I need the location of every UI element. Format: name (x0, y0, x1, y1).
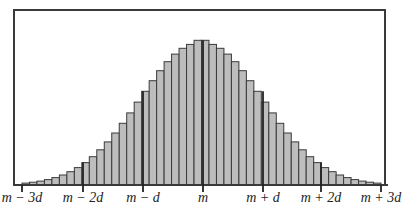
histogram-bar (104, 142, 111, 185)
tick-label-m-plus-3d: m + 3d (361, 190, 402, 206)
histogram-bar (306, 157, 313, 185)
histogram-bar (194, 40, 201, 185)
histogram-bar (74, 168, 81, 185)
histogram-bar (269, 113, 276, 185)
histogram-bar (187, 44, 194, 185)
histogram-bar (216, 48, 223, 185)
histogram-bar (224, 54, 231, 185)
histogram-bar (329, 172, 336, 185)
histogram-bar (127, 113, 134, 185)
histogram-bar (276, 123, 283, 185)
histogram-bar (231, 62, 238, 185)
histogram-bar (344, 178, 351, 185)
histogram-bar (59, 175, 66, 185)
histogram-bar (179, 48, 186, 185)
histogram-bar (134, 102, 141, 185)
histogram-bar (314, 163, 321, 185)
tick-label-m: m (198, 190, 208, 206)
histogram-bar (119, 123, 126, 185)
histogram-bar (112, 133, 119, 185)
histogram-bar (299, 150, 306, 185)
histogram-bar (149, 81, 156, 185)
histogram-bar (336, 175, 343, 185)
tick-label-m-minus-2d: m − 2d (63, 190, 104, 206)
tick-label-m-minus-d: m − d (126, 190, 160, 206)
histogram-bar (291, 142, 298, 185)
histogram-bar (209, 44, 216, 185)
histogram-bar (172, 54, 179, 185)
tick-label-m-plus-2d: m + 2d (301, 190, 342, 206)
histogram-bar (239, 71, 246, 185)
histogram-bar (164, 62, 171, 185)
tick-label-m-plus-d: m + d (246, 190, 280, 206)
tick-label-m-minus-3d: m − 3d (2, 190, 43, 206)
histogram-bar (254, 91, 261, 185)
histogram-bar (97, 150, 104, 185)
histogram-bar (157, 71, 164, 185)
histogram-bar (67, 172, 74, 185)
histogram-bar (246, 81, 253, 185)
histogram-bar (321, 168, 328, 185)
histogram-bar (89, 157, 96, 185)
histogram-bar (52, 178, 59, 185)
histogram-plot (0, 0, 404, 210)
histogram-bar (284, 133, 291, 185)
